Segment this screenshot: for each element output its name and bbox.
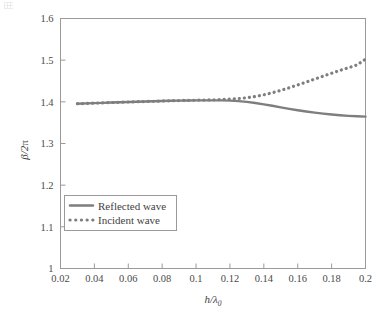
- legend-label[interactable]: Reflected wave: [98, 200, 166, 212]
- x-tick-label: 0.18: [322, 273, 340, 284]
- x-tick-label: 0.14: [255, 273, 274, 284]
- series-solid: [77, 100, 365, 116]
- y-tick-label: 1.5: [40, 55, 53, 66]
- svg-text:h/λ0: h/λ0: [204, 293, 221, 308]
- series-dotted: [77, 59, 365, 104]
- x-axis-title-text: h/λ: [204, 293, 218, 305]
- chart-canvas: 11.11.21.31.41.51.6 0.020.040.060.080.10…: [0, 0, 387, 316]
- y-tick-label: 1.4: [40, 97, 54, 108]
- x-axis-ticks: [61, 264, 366, 269]
- x-axis-title: h/λ0: [204, 293, 221, 308]
- y-tick-label: 1.1: [40, 222, 53, 233]
- y-axis-tick-labels: 11.11.21.31.41.51.6: [40, 13, 54, 274]
- x-tick-label: 0.1: [189, 273, 202, 284]
- x-tick-label: 0.16: [289, 273, 307, 284]
- y-tick-label: 1.6: [40, 13, 53, 24]
- chart-figure: 11.11.21.31.41.51.6 0.020.040.060.080.10…: [0, 0, 387, 316]
- chart-legend[interactable]: Reflected waveIncident wave: [65, 196, 177, 231]
- x-tick-label: 0.2: [359, 273, 372, 284]
- x-tick-label: 0.08: [153, 273, 171, 284]
- x-tick-label: 0.06: [119, 273, 137, 284]
- x-tick-label: 0.04: [85, 273, 104, 284]
- legend-label[interactable]: Incident wave: [98, 214, 160, 226]
- svg-text:β/2π: β/2π: [18, 140, 30, 161]
- y-tick-label: 1.2: [40, 180, 53, 191]
- x-axis-tick-labels: 0.020.040.060.080.10.120.140.160.180.2: [51, 273, 372, 284]
- data-series-group: [77, 59, 365, 116]
- x-tick-label: 0.12: [221, 273, 239, 284]
- y-axis-title: β/2π: [18, 140, 30, 161]
- y-tick-label: 1.3: [40, 138, 53, 149]
- x-tick-label: 0.02: [51, 273, 69, 284]
- y-axis-title-text: β/2: [18, 145, 30, 161]
